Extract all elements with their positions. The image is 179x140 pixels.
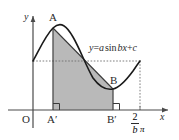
y-axis-label: y [24,12,28,22]
sine-curve-figure: y x O A A′ B B′ y=a sin bx+c 2 b π [0,0,179,140]
point-label-b-foot: B′ [107,114,117,125]
right-angle-mark-bfoot [113,104,120,111]
equation-constant: c [133,42,137,53]
x-axis-label: x [160,112,164,122]
equation-argument: bx [117,42,126,53]
equation-label: y=a sin bx+c [89,43,137,53]
x-axis-tick-label-period: 2 b π [131,112,145,135]
point-label-a: A [49,12,57,23]
point-label-b: B [110,75,117,86]
y-axis-arrowhead [31,16,36,22]
pi-symbol: π [140,124,145,135]
fraction-numerator: 2 [132,112,139,123]
equation-coefficient: a [99,42,104,53]
shaded-trapezoid-region [53,28,113,110]
point-label-a-foot: A′ [47,114,57,125]
equation-function-name: sin [105,42,117,53]
origin-label: O [22,114,30,125]
fraction-denominator: b [132,124,139,135]
fraction-two-over-b: 2 b [131,112,139,135]
